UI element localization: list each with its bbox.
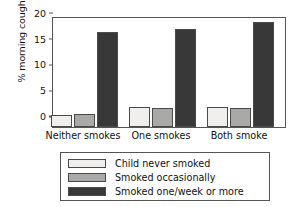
y-tick-label: 10 xyxy=(32,59,46,70)
chart-legend: Child never smokedSmoked occasionallySmo… xyxy=(60,152,270,201)
y-axis-label: % morning cough xyxy=(16,0,27,97)
legend-item: Smoked occasionally xyxy=(68,170,269,184)
x-label-both-smoke: Both smoke xyxy=(211,130,268,141)
y-tick-label: 0 xyxy=(32,111,46,122)
y-tick-label: 5 xyxy=(32,85,46,96)
legend-label: Smoked occasionally xyxy=(115,172,215,183)
bar xyxy=(97,32,118,127)
x-axis-category-labels: Neither smokesOne smokesBoth smoke xyxy=(52,130,286,144)
bar-chart-figure: % morning cough 05101520 Neither smokesO… xyxy=(0,0,301,207)
legend-label: Child never smoked xyxy=(115,158,210,169)
bar xyxy=(51,115,72,127)
y-tick-label: 20 xyxy=(32,7,46,18)
bar xyxy=(207,107,228,127)
bar xyxy=(74,114,95,127)
plot-area: 05101520 xyxy=(52,17,286,128)
y-tick-5: 5 xyxy=(32,85,53,96)
bar xyxy=(230,108,251,127)
legend-swatch xyxy=(68,173,106,182)
bar xyxy=(129,107,150,127)
y-tick-15: 15 xyxy=(32,33,53,44)
bar-series-layer xyxy=(53,18,285,127)
x-label-one-smokes: One smokes xyxy=(132,130,191,141)
y-tick-20: 20 xyxy=(32,7,53,18)
legend-swatch xyxy=(68,159,106,168)
legend-swatch xyxy=(68,187,106,196)
x-label-neither-smokes: Neither smokes xyxy=(46,130,121,141)
legend-label: Smoked one/week or more xyxy=(115,186,244,197)
y-tick-label: 15 xyxy=(32,33,46,44)
bar xyxy=(152,108,173,127)
y-tick-mark xyxy=(49,13,53,14)
legend-item: Smoked one/week or more xyxy=(68,184,269,198)
bar xyxy=(175,29,196,127)
legend-item: Child never smoked xyxy=(68,156,269,170)
y-tick-10: 10 xyxy=(32,59,53,70)
bar xyxy=(253,22,274,127)
